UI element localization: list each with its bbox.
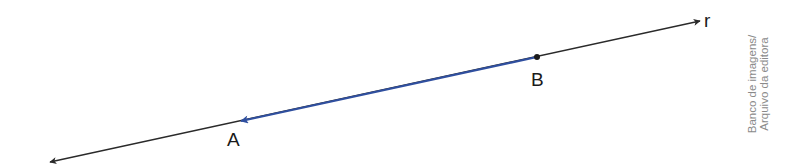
point-b-dot [534, 54, 540, 60]
point-b-label: B [531, 69, 544, 90]
line-diagram: r B A [0, 0, 802, 167]
point-a-label: A [227, 129, 240, 150]
line-r-label: r [704, 10, 711, 31]
credit-line-2: Arquivo da editora [758, 4, 770, 164]
vector-ba [241, 57, 537, 121]
credit-line-1: Banco de imagens/ [746, 4, 758, 164]
image-credit: Banco de imagens/ Arquivo da editora [746, 4, 770, 164]
